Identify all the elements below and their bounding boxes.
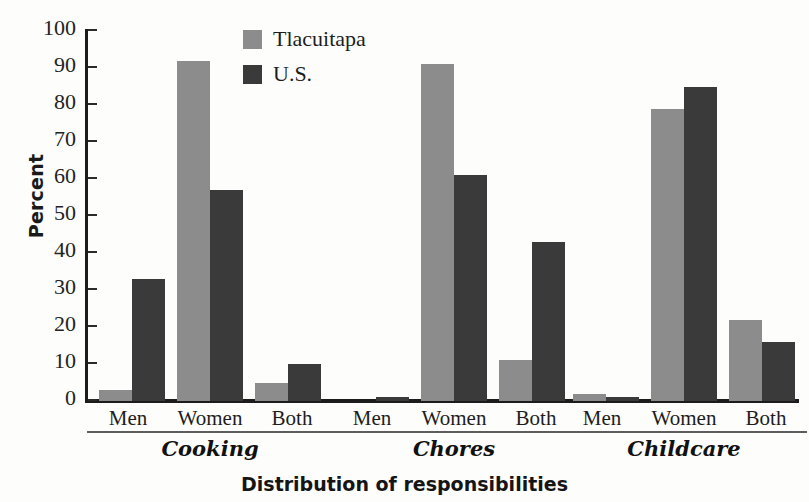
category-label-both: Both xyxy=(725,407,807,429)
bar-childcare-women-us xyxy=(684,87,717,402)
bar-childcare-both-us xyxy=(762,342,795,401)
category-label-women: Women xyxy=(643,407,725,429)
category-label-men: Men xyxy=(87,407,169,429)
y-tick-label: 10 xyxy=(54,348,76,374)
category-labels: MenWomenBoth xyxy=(561,407,807,429)
legend-label-us: U.S. xyxy=(273,61,312,87)
bar-cooking-women-tlacuitapa xyxy=(177,61,210,401)
bar-cooking-men-us xyxy=(132,279,165,401)
bar-cooking-both-us xyxy=(288,364,321,401)
group-name-cooking: Cooking xyxy=(87,436,333,461)
y-tick-mark xyxy=(88,214,97,216)
y-tick-mark xyxy=(88,362,97,364)
y-tick-mark xyxy=(88,288,97,290)
legend-item-0: Tlacuitapa xyxy=(243,26,366,52)
legend-swatch-us xyxy=(243,65,262,84)
y-tick-label: 20 xyxy=(54,311,76,337)
group-childcare: MenWomenBothChildcare xyxy=(561,407,807,461)
category-label-women: Women xyxy=(169,407,251,429)
x-axis-title: Distribution of responsibilities xyxy=(0,473,809,495)
bar-childcare-women-tlacuitapa xyxy=(651,109,684,401)
bar-chores-women-us xyxy=(454,175,487,401)
y-tick-label: 30 xyxy=(54,274,76,300)
group-underline xyxy=(87,431,333,433)
bar-chores-women-tlacuitapa xyxy=(421,64,454,401)
y-tick-label: 0 xyxy=(65,385,76,411)
chart-figure: Percent 1009080706050403020100 Tlacuitap… xyxy=(0,0,809,502)
bar-cooking-men-tlacuitapa xyxy=(99,390,132,401)
bar-childcare-both-tlacuitapa xyxy=(729,320,762,401)
y-tick-mark xyxy=(88,325,97,327)
y-tick-label: 50 xyxy=(54,200,76,226)
category-label-men: Men xyxy=(331,407,413,429)
bar-chores-men-us xyxy=(376,397,409,401)
y-tick-mark xyxy=(88,177,97,179)
y-tick-mark xyxy=(88,140,97,142)
bar-childcare-men-us xyxy=(606,397,639,401)
y-tick-label: 90 xyxy=(54,52,76,78)
group-name-chores: Chores xyxy=(331,436,577,461)
bar-cooking-both-tlacuitapa xyxy=(255,383,288,402)
bar-cooking-women-us xyxy=(210,190,243,401)
y-tick-mark xyxy=(88,251,97,253)
y-tick-label: 60 xyxy=(54,163,76,189)
y-tick-mark xyxy=(88,399,97,401)
legend-swatch-tlacuitapa xyxy=(243,30,262,49)
group-chores: MenWomenBothChores xyxy=(331,407,577,461)
category-label-both: Both xyxy=(251,407,333,429)
y-tick-label: 80 xyxy=(54,89,76,115)
bar-childcare-men-tlacuitapa xyxy=(573,394,606,401)
category-labels: MenWomenBoth xyxy=(331,407,577,429)
y-tick-mark xyxy=(88,29,97,31)
y-tick-label: 40 xyxy=(54,237,76,263)
legend: Tlacuitapa U.S. xyxy=(243,26,366,96)
group-cooking: MenWomenBothCooking xyxy=(87,407,333,461)
category-label-men: Men xyxy=(561,407,643,429)
y-axis-line xyxy=(85,29,88,403)
plot-area: 1009080706050403020100 xyxy=(85,29,799,403)
y-tick-mark xyxy=(88,66,97,68)
group-underline xyxy=(561,431,807,433)
legend-label-tlacuitapa: Tlacuitapa xyxy=(273,26,366,52)
category-labels: MenWomenBoth xyxy=(87,407,333,429)
category-label-women: Women xyxy=(413,407,495,429)
group-name-childcare: Childcare xyxy=(561,436,807,461)
group-underline xyxy=(331,431,577,433)
y-tick-mark xyxy=(88,103,97,105)
legend-item-1: U.S. xyxy=(243,61,366,87)
bar-chores-both-tlacuitapa xyxy=(499,360,532,401)
y-tick-label: 70 xyxy=(54,126,76,152)
y-axis-title: Percent xyxy=(25,116,47,276)
y-tick-label: 100 xyxy=(43,15,76,41)
bar-chores-both-us xyxy=(532,242,565,401)
